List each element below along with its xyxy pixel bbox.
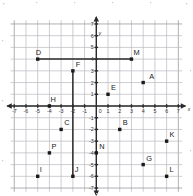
x-tick-label: 1 <box>107 108 110 114</box>
y-tick-label: 4 <box>91 56 94 62</box>
point-label: G <box>146 154 152 163</box>
point-marker <box>36 175 39 178</box>
point-marker <box>118 128 121 131</box>
scan-speck <box>2 100 3 101</box>
y-axis-arrow-up <box>94 16 99 21</box>
point-label: N <box>99 142 104 151</box>
y-tick-label: 1 <box>91 91 94 97</box>
coordinate-plane-figure: -7-6-5-4-3-2-11234567-7-6-5-4-3-2-112345… <box>0 0 193 196</box>
point-marker <box>36 57 39 60</box>
scan-speck <box>3 3 4 4</box>
y-tick-label: 5 <box>91 44 94 50</box>
x-tick-label: -5 <box>35 108 40 114</box>
x-tick-label: 5 <box>153 108 156 114</box>
point-marker <box>130 57 133 60</box>
y-tick-label: -2 <box>89 126 94 132</box>
coordinate-plane-svg: -7-6-5-4-3-2-11234567-7-6-5-4-3-2-112345… <box>0 0 193 196</box>
x-tick-label: -7 <box>12 108 17 114</box>
point-label: D <box>36 48 41 57</box>
point-label: I <box>40 165 42 174</box>
point-marker <box>95 151 98 154</box>
point-label: J <box>75 165 79 174</box>
x-tick-label: 6 <box>165 108 168 114</box>
x-tick-label: -3 <box>59 108 64 114</box>
y-tick-label: 2 <box>91 80 94 86</box>
x-tick-label: -2 <box>71 108 76 114</box>
scan-speck <box>74 2 75 3</box>
scan-speck <box>186 3 187 4</box>
scan-speck <box>96 193 97 194</box>
y-tick-label: 6 <box>91 33 94 39</box>
point-marker <box>165 139 168 142</box>
x-tick-label: 4 <box>142 108 145 114</box>
point-label: H <box>50 95 55 104</box>
y-tick-label: -3 <box>89 138 94 144</box>
point-marker <box>165 175 168 178</box>
scan-speck <box>2 160 3 161</box>
point-marker <box>48 151 51 154</box>
point-marker <box>71 175 74 178</box>
point-label: K <box>170 130 175 139</box>
x-axis-arrow-right <box>181 103 187 108</box>
point-label: L <box>170 165 174 174</box>
point-label: C <box>64 118 70 127</box>
scan-speck <box>36 2 37 3</box>
point-marker <box>141 81 144 84</box>
x-tick-label: -4 <box>47 108 52 114</box>
y-tick-label: -6 <box>89 173 94 179</box>
point-marker <box>106 93 109 96</box>
point-label: P <box>51 142 56 151</box>
origin-label: 0 <box>99 108 102 114</box>
point-label: A <box>149 72 154 81</box>
scan-speck <box>2 40 3 41</box>
x-tick-label: -1 <box>82 108 87 114</box>
point-marker <box>141 163 144 166</box>
x-tick-label: -6 <box>24 108 29 114</box>
point-label: M <box>133 48 139 57</box>
y-tick-label: -1 <box>89 115 94 121</box>
y-tick-label: 7 <box>91 21 94 27</box>
y-tick-label: -4 <box>89 150 94 156</box>
scan-speck <box>190 150 191 151</box>
point-marker <box>48 104 51 107</box>
point-marker <box>71 69 74 72</box>
point-label: F <box>76 60 81 69</box>
x-tick-label: 3 <box>130 108 133 114</box>
y-tick-label: -5 <box>89 162 94 168</box>
scan-speck <box>112 2 113 3</box>
x-tick-label: 2 <box>118 108 121 114</box>
x-axis-label: x <box>187 106 191 112</box>
point-marker <box>59 128 62 131</box>
axes <box>6 16 186 196</box>
y-tick-label: 3 <box>91 68 94 74</box>
point-label: E <box>111 83 116 92</box>
scan-speck <box>190 70 191 71</box>
point-label: B <box>123 118 128 127</box>
y-axis-label: y <box>98 30 102 36</box>
y-tick-label: -7 <box>89 185 94 191</box>
x-tick-label: 7 <box>177 108 180 114</box>
scan-speck <box>150 2 151 3</box>
